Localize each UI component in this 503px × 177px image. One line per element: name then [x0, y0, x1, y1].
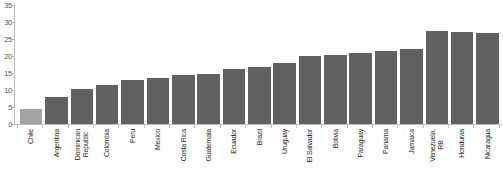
bar-uruguay	[273, 63, 296, 124]
x-axis-tick	[271, 125, 272, 128]
y-tick-label: 30	[0, 18, 12, 27]
x-tick-label: Panama	[382, 129, 390, 154]
x-tick-label: El Salvador	[306, 129, 314, 163]
x-axis-tick	[245, 125, 246, 128]
bar-panama	[375, 51, 398, 124]
x-axis-tick	[499, 125, 500, 128]
x-tick-label: Colombia	[103, 129, 111, 157]
x-axis-tick	[423, 125, 424, 128]
x-label-slot: Brazil	[247, 129, 272, 177]
x-label-slot: Panama	[373, 129, 398, 177]
y-axis-tick	[12, 107, 14, 108]
x-axis-line	[14, 124, 502, 125]
bar-peru	[121, 80, 144, 124]
x-label-slot: Paraguay	[348, 129, 373, 177]
x-axis-tick	[194, 125, 195, 128]
x-tick-label: Brazil	[256, 129, 264, 145]
bar-mexico	[147, 78, 170, 124]
y-axis-tick	[12, 56, 14, 57]
x-axis-tick	[169, 125, 170, 128]
x-axis-tick	[347, 125, 348, 128]
y-tick-label: 0	[0, 120, 12, 129]
bar-jamaica	[400, 49, 423, 124]
x-label-slot: El Salvador	[297, 129, 322, 177]
x-tick-label: Dominican Republic	[74, 129, 89, 160]
x-tick-label: Chile	[27, 129, 35, 144]
x-label-slot: Nicaragua	[475, 129, 500, 177]
x-axis-tick	[372, 125, 373, 128]
y-axis-line	[14, 5, 15, 125]
y-tick-label: 20	[0, 52, 12, 61]
bar-nicaragua	[476, 33, 499, 124]
bar-venezuela-rb	[426, 31, 449, 124]
x-tick-label: Nicaragua	[484, 129, 492, 159]
x-tick-label: Venezuela, RB	[429, 129, 444, 162]
bar-costa-rica	[172, 75, 195, 124]
x-axis-tick	[93, 125, 94, 128]
y-tick-label: 5	[0, 103, 12, 112]
x-label-slot: Costa Rica	[171, 129, 196, 177]
x-tick-label: Mexico	[154, 129, 162, 150]
x-tick-label: Guatemala	[205, 129, 213, 161]
x-label-slot: Colombia	[95, 129, 120, 177]
x-tick-label: Peru	[129, 129, 137, 143]
x-tick-label: Honduras	[458, 129, 466, 158]
x-label-slot: Bolivia	[323, 129, 348, 177]
bar-dominican-republic	[71, 89, 94, 124]
y-tick-label: 10	[0, 86, 12, 95]
x-tick-label: Costa Rica	[180, 129, 188, 161]
x-axis-tick	[397, 125, 398, 128]
bar-bolivia	[324, 55, 347, 124]
x-label-slot: Mexico	[145, 129, 170, 177]
bar-ecuador	[223, 69, 246, 124]
bar-chile	[20, 109, 43, 124]
bar-chart: 05101520253035 ChileArgentinaDominican R…	[0, 0, 503, 177]
x-label-slot: Peru	[120, 129, 145, 177]
x-axis-tick	[118, 125, 119, 128]
y-axis-tick	[12, 5, 14, 6]
x-axis-tick	[42, 125, 43, 128]
x-label-slot: Venezuela, RB	[424, 129, 449, 177]
x-axis-tick	[220, 125, 221, 128]
x-tick-label: Argentina	[53, 129, 61, 157]
y-axis-tick	[12, 22, 14, 23]
y-axis-tick	[12, 90, 14, 91]
x-tick-label: Jamaica	[408, 129, 416, 154]
bar-brazil	[248, 67, 271, 124]
x-label-slot: Argentina	[44, 129, 69, 177]
x-axis-tick	[321, 125, 322, 128]
bar-el-salvador	[299, 56, 322, 124]
y-axis-tick	[12, 39, 14, 40]
x-tick-label: Ecuador	[230, 129, 238, 154]
bar-paraguay	[349, 53, 372, 124]
bar-honduras	[451, 32, 474, 124]
x-label-slot: Ecuador	[221, 129, 246, 177]
x-axis-tick	[144, 125, 145, 128]
x-label-slot: Dominican Republic	[69, 129, 94, 177]
x-axis-tick	[17, 125, 18, 128]
x-axis-tick	[68, 125, 69, 128]
y-tick-label: 15	[0, 69, 12, 78]
x-label-slot: Uruguay	[272, 129, 297, 177]
x-axis-tick	[473, 125, 474, 128]
y-tick-label: 25	[0, 35, 12, 44]
y-tick-label: 35	[0, 1, 12, 10]
y-axis-tick	[12, 73, 14, 74]
x-axis-tick	[448, 125, 449, 128]
x-label-slot: Chile	[19, 129, 44, 177]
bar-argentina	[45, 97, 68, 124]
x-label-slot: Honduras	[449, 129, 474, 177]
x-tick-label: Uruguay	[281, 129, 289, 154]
x-tick-label: Paraguay	[357, 129, 365, 157]
x-label-slot: Jamaica	[399, 129, 424, 177]
x-tick-label: Bolivia	[332, 129, 340, 148]
bar-guatemala	[197, 74, 220, 124]
x-label-slot: Guatemala	[196, 129, 221, 177]
x-axis-tick	[296, 125, 297, 128]
bar-colombia	[96, 85, 119, 124]
